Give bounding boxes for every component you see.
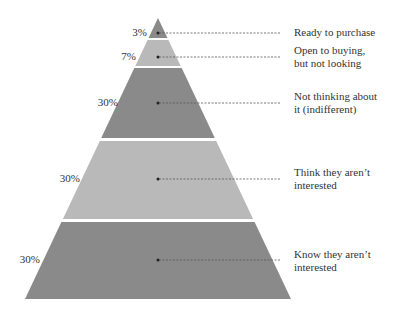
segment-label-5: Know they aren’t interested [294, 248, 402, 274]
label-line: Think they aren’t [294, 166, 402, 179]
value-label-2: 7% [96, 50, 136, 62]
value-label-3: 30% [78, 96, 118, 108]
value-label-4: 30% [40, 172, 80, 184]
label-line: interested [294, 179, 402, 192]
value-label-1: 3% [107, 26, 147, 38]
label-line: Not thinking about [294, 90, 402, 103]
segment-label-4: Think they aren’t interested [294, 166, 402, 192]
segment-open-to-buying [135, 40, 180, 66]
label-line: Ready to purchase [294, 26, 402, 39]
segment-ready-to-purchase [149, 18, 168, 38]
label-line: Know they aren’t [294, 248, 402, 261]
segment-label-2: Open to buying, but not looking [294, 44, 402, 70]
segment-label-3: Not thinking about it (indifferent) [294, 90, 402, 116]
segment-label-1: Ready to purchase [294, 26, 402, 39]
value-label-5: 30% [0, 253, 40, 265]
label-line: it (indifferent) [294, 103, 402, 116]
label-line: interested [294, 261, 402, 274]
label-line: but not looking [294, 57, 402, 70]
label-line: Open to buying, [294, 44, 402, 57]
